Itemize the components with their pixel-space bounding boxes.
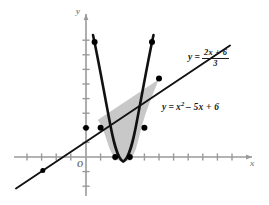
line-eq-numerator: 2x + 6: [202, 48, 229, 57]
x-axis-label: x: [250, 158, 255, 168]
point-region-left-vertex: [98, 125, 104, 131]
shaded-region: [98, 79, 159, 161]
graph-canvas: [0, 0, 269, 205]
point-intersection-right: [156, 76, 162, 82]
y-axis-arrow: [84, 14, 89, 20]
origin-label: O: [77, 159, 83, 169]
point-parabola-right-low: [141, 125, 147, 131]
line-eq-fraction: 2x + 6 3: [202, 48, 229, 68]
point-line-y-intercept: [83, 125, 89, 131]
point-parabola-root-3: [127, 154, 133, 160]
point-parabola-upper-left: [92, 39, 98, 45]
math-figure: y x O y= 2x + 6 3 y=x2– 5x + 6: [0, 0, 269, 205]
point-parabola-root-2: [112, 154, 118, 160]
y-axis-label: y: [76, 6, 80, 16]
line-eq-denominator: 3: [202, 59, 229, 68]
line-eq-equals: =: [192, 52, 202, 62]
parabola-eq-tail: – 5x + 6: [184, 102, 219, 112]
parabola-eq-equals: =: [166, 102, 176, 112]
point-line-x-intercept: [40, 168, 45, 173]
line-equation-label: y= 2x + 6 3: [188, 48, 229, 68]
parabola-equation-label: y=x2– 5x + 6: [162, 100, 219, 112]
point-parabola-upper-right: [149, 39, 155, 45]
